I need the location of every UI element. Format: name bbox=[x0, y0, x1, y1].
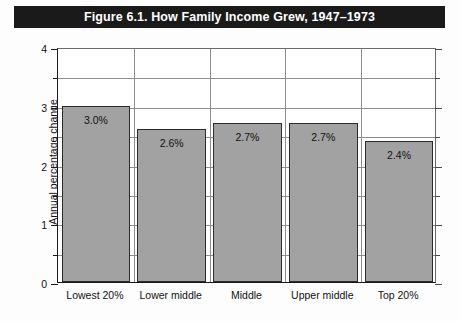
y-axis-tick-right bbox=[435, 284, 442, 285]
bar[interactable]: 2.6% bbox=[137, 129, 206, 282]
y-axis-tick-label: 0 bbox=[41, 278, 47, 290]
gridline-vertical bbox=[285, 49, 286, 282]
y-axis-tick-label: 2 bbox=[41, 161, 47, 173]
y-axis-tick-right bbox=[435, 49, 442, 50]
bar[interactable]: 2.7% bbox=[289, 123, 358, 282]
y-axis-tick-right bbox=[435, 225, 442, 226]
x-axis-tick-label: Top 20% bbox=[378, 289, 419, 301]
y-axis-tick bbox=[51, 225, 58, 226]
gridline-vertical bbox=[361, 49, 362, 282]
gridline-horizontal bbox=[58, 78, 435, 79]
y-axis-tick bbox=[51, 167, 58, 168]
figure-title: Figure 6.1. How Family Income Grew, 1947… bbox=[84, 10, 375, 24]
y-axis-tick bbox=[51, 284, 58, 285]
figure-title-bar: Figure 6.1. How Family Income Grew, 1947… bbox=[14, 6, 445, 28]
bar[interactable]: 3.0% bbox=[62, 106, 131, 282]
bar[interactable]: 2.7% bbox=[213, 123, 282, 282]
y-axis-minor-tick-right bbox=[435, 137, 440, 138]
y-axis-tick bbox=[51, 49, 58, 50]
y-axis-tick-right bbox=[435, 167, 442, 168]
y-axis-minor-tick bbox=[53, 78, 58, 79]
x-axis-tick-label: Lower middle bbox=[139, 289, 201, 301]
x-axis-tick-label: Middle bbox=[231, 289, 262, 301]
y-axis-tick bbox=[51, 108, 58, 109]
bar-value-label: 2.7% bbox=[290, 131, 357, 143]
y-axis-minor-tick-right bbox=[435, 78, 440, 79]
y-axis-minor-tick-right bbox=[435, 196, 440, 197]
gridline-vertical bbox=[210, 49, 211, 282]
gridline-vertical bbox=[134, 49, 135, 282]
y-axis-tick-label: 3 bbox=[41, 102, 47, 114]
y-axis-minor-tick bbox=[53, 255, 58, 256]
y-axis-tick-label: 1 bbox=[41, 219, 47, 231]
x-axis-tick-label: Upper middle bbox=[291, 289, 353, 301]
bar-value-label: 2.6% bbox=[138, 137, 205, 149]
plot-area: 012343.0%2.6%2.7%2.7%2.4% bbox=[57, 48, 436, 283]
bar-value-label: 2.4% bbox=[366, 149, 433, 161]
y-axis-minor-tick-right bbox=[435, 255, 440, 256]
y-axis-tick-label: 4 bbox=[41, 43, 47, 55]
y-axis-tick-right bbox=[435, 108, 442, 109]
x-axis-tick-label: Lowest 20% bbox=[66, 289, 123, 301]
bar[interactable]: 2.4% bbox=[365, 141, 434, 282]
bar-value-label: 2.7% bbox=[214, 131, 281, 143]
y-axis-minor-tick bbox=[53, 137, 58, 138]
bar-value-label: 3.0% bbox=[63, 114, 130, 126]
figure-container: Figure 6.1. How Family Income Grew, 1947… bbox=[0, 0, 460, 321]
y-axis-minor-tick bbox=[53, 196, 58, 197]
